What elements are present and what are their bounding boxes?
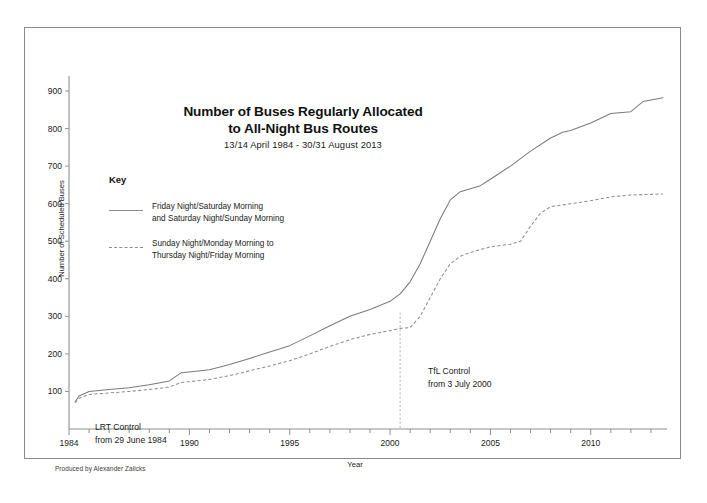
x-tick-label: 1995 [280,438,299,448]
legend-label-line2: Thursday Night/Friday Morning [152,251,264,260]
legend-label-friday-saturday: Friday Night/Saturday Morning and Saturd… [152,201,284,224]
legend-label-line2: and Saturday Night/Sunday Morning [152,214,284,223]
legend-label-line1: Friday Night/Saturday Morning [152,202,263,211]
annotation-lrt-line1: LRT Control [95,421,167,434]
chart-frame: 1002003004005006007008009001984199019952… [24,27,681,459]
legend: Key Friday Night/Saturday Morning and Sa… [109,174,339,275]
legend-item-sunday-thursday: Sunday Night/Monday Morning to Thursday … [109,238,339,261]
y-tick-label: 900 [48,86,62,96]
x-tick-label: 2000 [381,438,400,448]
x-tick-label: 2005 [481,438,500,448]
legend-label-line1: Sunday Night/Monday Morning to [152,239,274,248]
x-axis-title: Year [325,460,385,469]
annotation-tfl-line1: TfL Control [428,365,492,378]
annotation-tfl-line2: from 3 July 2000 [428,378,492,391]
y-tick-label: 100 [48,386,62,396]
x-tick-label: 1990 [180,438,199,448]
x-tick-label: 1984 [60,438,79,448]
legend-item-friday-saturday: Friday Night/Saturday Morning and Saturd… [109,201,339,224]
legend-swatch-dashed-line [109,242,143,254]
y-tick-label: 200 [48,349,62,359]
legend-swatch-solid-line [109,205,143,217]
legend-title: Key [109,174,339,185]
chart-title: Number of Buses Regularly Allocated to A… [125,104,481,137]
chart-title-line2: to All-Night Bus Routes [125,121,481,138]
y-tick-label: 800 [48,124,62,134]
x-tick-label: 2010 [581,438,600,448]
poster-canvas: 1002003004005006007008009001984199019952… [0,0,707,503]
annotation-lrt-control: LRT Control from 29 June 1984 [95,421,167,446]
chart-title-line1: Number of Buses Regularly Allocated [125,104,481,121]
credit-line: Produced by Alexander Zalicks [55,465,146,472]
chart-subtitle: 13/14 April 1984 - 30/31 August 2013 [125,139,481,150]
y-axis-title: Number of Scheduled Buses [57,169,66,289]
y-tick-label: 300 [48,311,62,321]
annotation-tfl-control: TfL Control from 3 July 2000 [428,365,492,390]
legend-label-sunday-thursday: Sunday Night/Monday Morning to Thursday … [152,238,274,261]
annotation-lrt-line2: from 29 June 1984 [95,434,167,447]
